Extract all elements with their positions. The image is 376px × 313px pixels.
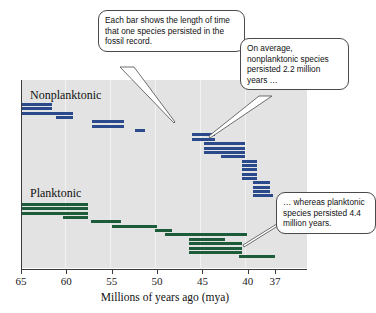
bar-nonplanktonic-10 — [204, 147, 245, 150]
bar-nonplanktonic-2 — [22, 112, 73, 115]
callout-bar-meaning: Each bar shows the length of time that o… — [98, 10, 245, 52]
bar-nonplanktonic-17 — [242, 177, 257, 180]
series-label-planktonic: Planktonic — [30, 186, 81, 201]
bar-nonplanktonic-20 — [253, 190, 270, 193]
gridline-60 — [65, 80, 66, 269]
x-tick-label-40: 40 — [233, 275, 263, 287]
bar-nonplanktonic-4 — [92, 120, 124, 123]
x-tick-60 — [66, 269, 67, 274]
x-tick-label-65: 65 — [6, 275, 36, 287]
callout-nonplanktonic-average: On average, nonplanktonic species persis… — [240, 38, 349, 90]
bar-nonplanktonic-14 — [242, 164, 257, 167]
bar-nonplanktonic-7 — [192, 133, 216, 136]
x-tick-45 — [202, 269, 203, 274]
gridline-55 — [110, 80, 111, 269]
bar-nonplanktonic-6 — [135, 129, 145, 132]
x-tick-label-60: 60 — [51, 275, 81, 287]
bar-nonplanktonic-11 — [204, 151, 245, 154]
gridline-50 — [155, 80, 156, 269]
series-label-nonplanktonic: Nonplanktonic — [30, 88, 101, 103]
bar-planktonic-5 — [112, 225, 157, 228]
bar-nonplanktonic-0 — [22, 103, 52, 106]
bar-planktonic-6 — [155, 229, 172, 232]
bar-planktonic-2 — [22, 212, 88, 215]
x-tick-label-55: 55 — [97, 275, 127, 287]
bar-nonplanktonic-19 — [253, 186, 270, 189]
bar-nonplanktonic-8 — [192, 138, 216, 141]
bar-planktonic-10 — [189, 247, 243, 250]
x-axis-title: Millions of years ago (mya) — [0, 291, 330, 303]
bar-nonplanktonic-16 — [242, 173, 257, 176]
x-tick-label-45: 45 — [187, 275, 217, 287]
bar-nonplanktonic-13 — [242, 160, 257, 163]
x-tick-55 — [112, 269, 113, 274]
bar-planktonic-1 — [22, 207, 88, 210]
bar-nonplanktonic-21 — [253, 194, 273, 197]
callout-planktonic-average: … whereas planktonic species persisted 4… — [276, 192, 376, 234]
x-tick-50 — [157, 269, 158, 274]
bar-nonplanktonic-15 — [242, 168, 257, 171]
x-axis-line — [21, 269, 307, 270]
bar-planktonic-12 — [239, 255, 275, 258]
bar-planktonic-7 — [165, 233, 247, 236]
bar-planktonic-11 — [189, 251, 243, 254]
bar-planktonic-8 — [189, 238, 225, 241]
bar-planktonic-0 — [22, 203, 88, 206]
x-tick-65 — [21, 269, 22, 274]
x-tick-label-37: 37 — [260, 275, 290, 287]
bar-nonplanktonic-18 — [253, 181, 270, 184]
bar-nonplanktonic-9 — [204, 142, 245, 145]
x-tick-37 — [275, 269, 276, 274]
bar-nonplanktonic-5 — [92, 125, 124, 128]
bar-nonplanktonic-12 — [221, 155, 245, 158]
x-tick-label-50: 50 — [142, 275, 172, 287]
bar-planktonic-9 — [189, 242, 243, 245]
bar-nonplanktonic-3 — [56, 116, 72, 119]
bar-planktonic-4 — [91, 220, 121, 223]
bar-nonplanktonic-1 — [22, 107, 52, 110]
x-tick-40 — [248, 269, 249, 274]
bar-planktonic-3 — [63, 216, 88, 219]
